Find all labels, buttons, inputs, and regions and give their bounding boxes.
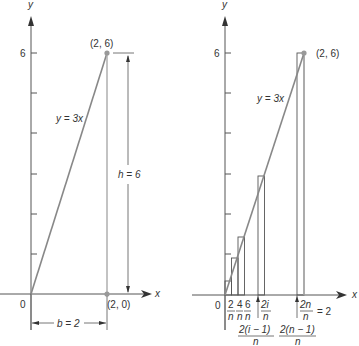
right-y-label: y xyxy=(221,0,228,10)
label-2i-minus-1-over-n: 2(i − 1) n xyxy=(238,324,274,346)
left-point-2-0 xyxy=(104,291,109,296)
frac-num: 4 xyxy=(237,299,243,310)
frac-den: n xyxy=(228,311,234,322)
left-point-2-6 xyxy=(104,50,109,55)
right-x-label: x xyxy=(351,289,358,300)
right-curve-label: y = 3x xyxy=(256,93,285,104)
right-point-2-6-label: (2, 6) xyxy=(316,48,339,59)
right-y-arrow-icon xyxy=(222,16,228,26)
frac-num: 2(i − 1) xyxy=(238,324,270,335)
left-y-label: y xyxy=(27,0,34,10)
label-6-over-n: 6 n xyxy=(244,299,251,322)
left-y-arrow-icon xyxy=(28,16,34,26)
label-2n-minus-1-over-n: 2(n − 1) n xyxy=(279,324,316,346)
left-x-label: x xyxy=(154,288,161,299)
left-b-left-arrow-icon xyxy=(32,321,39,325)
right-y-tick-6: 6 xyxy=(214,48,220,59)
right-y-ticks xyxy=(225,53,231,254)
rect-n xyxy=(297,53,304,295)
frac-den: n xyxy=(263,311,269,322)
left-b-right-arrow-icon xyxy=(99,321,106,325)
left-line-y-equals-3x xyxy=(31,53,107,294)
left-y-ticks xyxy=(31,53,37,254)
frac-den: n xyxy=(253,336,259,346)
frac-den: n xyxy=(245,311,251,322)
right-figure: y 6 x 0 (2, 6) y = 3x xyxy=(192,0,358,346)
frac-num: 6 xyxy=(245,299,251,310)
left-figure: y 6 x 0 (2, 6) (2, 0) y = 3x h = 6 xyxy=(0,0,161,330)
rect-i xyxy=(258,176,265,295)
frac-num: 2n xyxy=(299,299,312,310)
left-y-tick-6: 6 xyxy=(20,48,26,59)
label-2i-over-n: 2i n xyxy=(260,299,271,322)
right-origin-label: 0 xyxy=(215,300,221,311)
diagram-canvas: y 6 x 0 (2, 6) (2, 0) y = 3x h = 6 xyxy=(0,0,359,346)
frac-num: 2(n − 1) xyxy=(279,324,315,335)
left-curve-label: y = 3x xyxy=(55,113,84,124)
frac-den: n xyxy=(295,336,301,346)
left-point-2-6-label: (2, 6) xyxy=(90,38,113,49)
frac-num: 2i xyxy=(260,299,270,310)
left-base-label: b = 2 xyxy=(57,318,80,329)
left-origin-label: 0 xyxy=(20,299,26,310)
frac-den: n xyxy=(303,311,309,322)
tick-2n-minus-1-arrow-icon xyxy=(295,296,299,302)
label-2n-over-n: 2n n = 2 xyxy=(299,299,332,322)
left-h-up-arrow-icon xyxy=(126,55,130,62)
label-4-over-n: 4 n xyxy=(236,299,243,322)
frac-num: 2 xyxy=(228,299,234,310)
tick-2i-minus-1-arrow-icon xyxy=(256,296,260,302)
left-point-2-0-label: (2, 0) xyxy=(107,299,130,310)
label-2-over-n: 2 n xyxy=(227,299,235,322)
left-height-label: h = 6 xyxy=(118,169,141,180)
left-h-down-arrow-icon xyxy=(126,286,130,293)
right-point-2-6 xyxy=(301,50,306,55)
frac-suffix: = 2 xyxy=(317,306,332,317)
frac-den: n xyxy=(237,311,243,322)
